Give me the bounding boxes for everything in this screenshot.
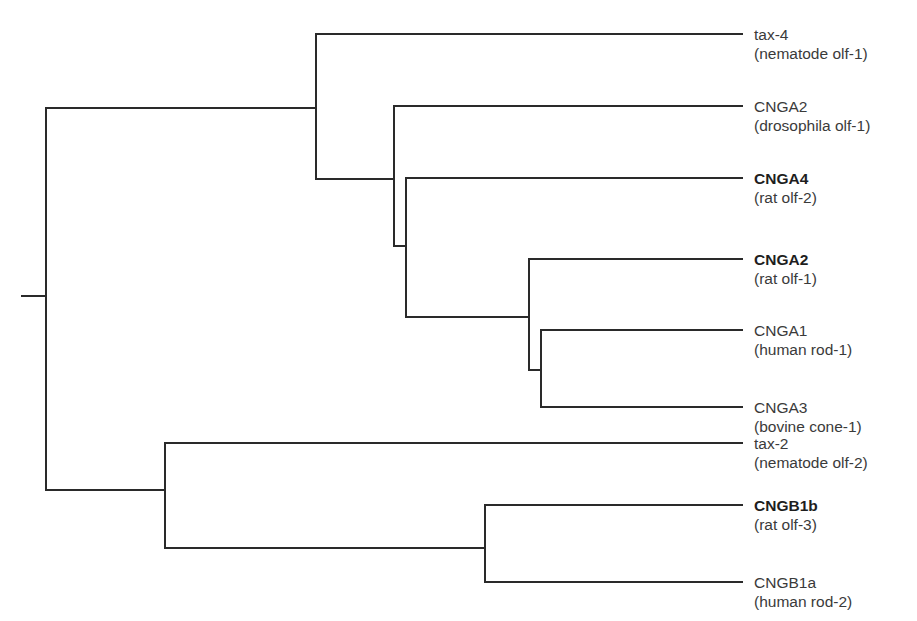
leaf-name: CNGA4 [754, 169, 817, 188]
leaf-name: CNGA2 [754, 97, 870, 116]
leaf-name: CNGA1 [754, 321, 852, 340]
leaf-subtitle: (human rod-2) [754, 592, 852, 611]
leaf-subtitle: (rat olf-3) [754, 515, 818, 534]
leaf-subtitle: (nematode olf-1) [754, 44, 868, 63]
leaf-name: CNGA2 [754, 250, 817, 269]
leaf-subtitle: (human rod-1) [754, 340, 852, 359]
leaf-name: CNGB1a [754, 573, 852, 592]
leaf-subtitle: (nematode olf-2) [754, 453, 868, 472]
leaf-label-cnga2-drosophila: CNGA2 (drosophila olf-1) [754, 97, 870, 135]
leaf-name: tax-2 [754, 434, 868, 453]
leaf-label-cnga3: CNGA3 (bovine cone-1) [754, 398, 862, 436]
leaf-label-cnga2-rat: CNGA2 (rat olf-1) [754, 250, 817, 288]
leaf-label-cngb1b: CNGB1b (rat olf-3) [754, 496, 818, 534]
leaf-name: tax-4 [754, 25, 868, 44]
leaf-label-tax2: tax-2 (nematode olf-2) [754, 434, 868, 472]
leaf-name: CNGB1b [754, 496, 818, 515]
leaf-subtitle: (drosophila olf-1) [754, 116, 870, 135]
leaf-label-cnga4: CNGA4 (rat olf-2) [754, 169, 817, 207]
leaf-label-cngb1a: CNGB1a (human rod-2) [754, 573, 852, 611]
leaf-subtitle: (rat olf-2) [754, 188, 817, 207]
leaf-subtitle: (rat olf-1) [754, 269, 817, 288]
leaf-label-cnga1: CNGA1 (human rod-1) [754, 321, 852, 359]
leaf-label-tax4: tax-4 (nematode olf-1) [754, 25, 868, 63]
leaf-name: CNGA3 [754, 398, 862, 417]
